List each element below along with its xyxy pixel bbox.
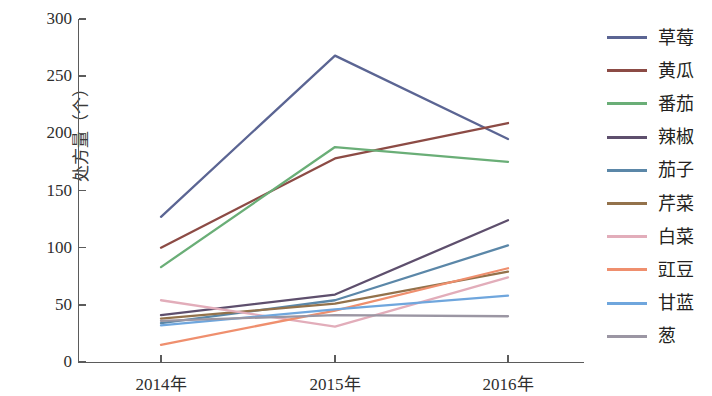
legend-item-label: 草莓 [658, 29, 694, 47]
legend-item-label: 白菜 [658, 228, 694, 246]
legend-item-label: 芹菜 [658, 195, 694, 213]
legend-color-swatch [607, 169, 647, 172]
legend-item[interactable]: 茄子 [607, 154, 712, 187]
legend-item-label: 番茄 [658, 95, 694, 113]
legend-item[interactable]: 番茄 [607, 87, 712, 120]
series-line [161, 56, 508, 217]
legend-color-swatch [607, 235, 647, 238]
legend-item[interactable]: 辣椒 [607, 121, 712, 154]
legend-item-label: 茄子 [658, 161, 694, 179]
legend-color-swatch [607, 202, 647, 205]
legend-color-swatch [607, 302, 647, 305]
legend-item[interactable]: 芹菜 [607, 187, 712, 220]
legend-color-swatch [607, 268, 647, 271]
legend-item[interactable]: 葱 [607, 320, 712, 353]
legend-item[interactable]: 豇豆 [607, 253, 712, 286]
legend-item-label: 豇豆 [658, 261, 694, 279]
series-line [161, 268, 508, 345]
series-line [161, 123, 508, 248]
legend-color-swatch [607, 69, 647, 72]
legend-item[interactable]: 黄瓜 [607, 54, 712, 87]
legend-item[interactable]: 草莓 [607, 21, 712, 54]
legend-color-swatch [607, 102, 647, 105]
legend-item-label: 辣椒 [658, 128, 694, 146]
legend-color-swatch [607, 36, 647, 39]
legend-color-swatch [607, 136, 647, 139]
line-chart: 处方量（个） 050100150200250300 2014年2015年2016… [0, 0, 712, 396]
legend-item-label: 甘蓝 [658, 294, 694, 312]
legend-color-swatch [607, 335, 647, 338]
legend-item-label: 黄瓜 [658, 62, 694, 80]
legend: 草莓黄瓜番茄辣椒茄子芹菜白菜豇豆甘蓝葱 [607, 21, 712, 353]
series-plot-area [0, 0, 712, 396]
legend-item[interactable]: 甘蓝 [607, 287, 712, 320]
series-line [161, 147, 508, 267]
legend-item[interactable]: 白菜 [607, 220, 712, 253]
legend-item-label: 葱 [658, 327, 676, 345]
